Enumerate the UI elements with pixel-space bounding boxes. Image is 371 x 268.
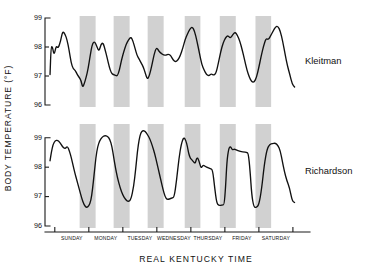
y-ticks-richardson (45, 167, 49, 196)
y-tick-label-98-kleitman: 98 (34, 42, 42, 51)
x-tick-label-wednesday: WEDNESDAY (157, 235, 191, 241)
x-tick-label-saturday: SATURDAY (262, 235, 291, 241)
x-tick-label-tuesday: TUESDAY (127, 235, 152, 241)
night-band (220, 16, 236, 107)
series-label-kleitman: Kleitman (305, 55, 341, 66)
x-tick-label-thursday: THURSDAY (193, 235, 222, 241)
night-bands-richardson (80, 124, 272, 228)
y-tick-label-96-kleitman: 96 (34, 100, 42, 109)
figure-container: 99 98 97 96 Kleitman 99 98 97 96 Richard… (0, 0, 371, 268)
x-axis-title: REAL KENTUCKY TIME (139, 254, 253, 264)
y-axis-kleitman (45, 18, 50, 105)
x-axis: SUNDAY MONDAY TUESDAY WEDNESDAY THURSDAY… (45, 227, 310, 241)
x-tick-label-sunday: SUNDAY (61, 235, 83, 241)
night-band (185, 124, 201, 228)
y-tick-label-98-richardson: 98 (34, 162, 42, 171)
night-band (80, 124, 96, 228)
y-tick-label-97-richardson: 97 (34, 191, 42, 200)
night-band (148, 16, 164, 107)
night-band (114, 124, 130, 228)
night-band (80, 16, 96, 107)
body-temperature-chart: 99 98 97 96 Kleitman 99 98 97 96 Richard… (0, 0, 371, 268)
y-tick-label-99-richardson: 99 (34, 133, 42, 142)
y-ticks-kleitman (45, 47, 49, 76)
y-tick-label-96-richardson: 96 (34, 221, 42, 230)
y-axis-richardson (45, 138, 50, 226)
series-label-richardson: Richardson (305, 165, 352, 176)
y-tick-label-97-kleitman: 97 (34, 71, 42, 80)
night-band (220, 124, 236, 228)
x-tick-label-monday: MONDAY (94, 235, 117, 241)
x-tick-label-friday: FRIDAY (232, 235, 252, 241)
night-band (255, 16, 271, 107)
y-tick-label-99-kleitman: 99 (34, 13, 42, 22)
y-axis-title: BODY TEMPERATURE (°F) (3, 65, 13, 191)
night-band (185, 16, 201, 107)
